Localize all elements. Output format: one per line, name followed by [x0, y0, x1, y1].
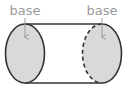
left-base-label: base — [10, 3, 41, 18]
cylinder-figure: base base — [0, 0, 130, 90]
right-base-label: base — [87, 3, 118, 18]
cylinder-diagram: base base — [0, 0, 130, 90]
